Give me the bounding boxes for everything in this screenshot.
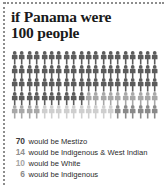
person-icon (144, 65, 151, 79)
person-icon (85, 78, 92, 92)
person-icon (85, 92, 92, 106)
person-icon (100, 51, 107, 65)
person-icon (41, 78, 48, 92)
legend-label: would be Indigenous (29, 169, 99, 180)
person-icon (100, 105, 107, 119)
person-icon (11, 105, 18, 119)
person-icon (92, 78, 99, 92)
person-icon (107, 92, 114, 106)
person-icon (63, 92, 70, 106)
person-icon (114, 105, 121, 119)
person-icon (92, 51, 99, 65)
legend-label: would be Mestizo (29, 136, 88, 147)
person-icon (114, 78, 121, 92)
page-title: if Panama were 100 people (11, 9, 156, 41)
pictogram-grid (11, 51, 159, 119)
person-icon (26, 78, 33, 92)
person-icon (100, 78, 107, 92)
person-icon (41, 65, 48, 79)
person-icon (129, 92, 136, 106)
person-icon (144, 105, 151, 119)
person-icon (85, 105, 92, 119)
legend-label: would be White (29, 158, 81, 169)
person-icon (151, 105, 158, 119)
person-icon (70, 78, 77, 92)
person-icon (100, 65, 107, 79)
legend-value: 6 (8, 169, 25, 180)
person-icon (11, 51, 18, 65)
person-icon (85, 65, 92, 79)
person-icon (122, 105, 129, 119)
person-icon (48, 105, 55, 119)
person-icon (26, 65, 33, 79)
person-icon (78, 65, 85, 79)
person-icon (70, 92, 77, 106)
person-icon (26, 105, 33, 119)
person-icon (41, 51, 48, 65)
legend-value: 14 (8, 147, 25, 158)
person-icon (92, 65, 99, 79)
person-icon (55, 78, 62, 92)
person-icon (55, 51, 62, 65)
person-icon (48, 92, 55, 106)
chart-legend: 70would be Mestizo14would be Indigenous … (8, 136, 160, 180)
person-icon (33, 92, 40, 106)
person-icon (151, 92, 158, 106)
person-icon (18, 105, 25, 119)
person-icon (63, 78, 70, 92)
title-line-2: 100 people (11, 25, 156, 41)
person-icon (129, 65, 136, 79)
legend-item: 10would be White (8, 158, 160, 169)
person-icon (48, 65, 55, 79)
person-icon (129, 105, 136, 119)
person-icon (78, 51, 85, 65)
person-icon (18, 92, 25, 106)
person-icon (33, 105, 40, 119)
person-icon (114, 92, 121, 106)
person-icon (129, 78, 136, 92)
person-icon (78, 105, 85, 119)
person-icon (100, 92, 107, 106)
person-icon (85, 51, 92, 65)
person-icon (137, 51, 144, 65)
person-icon (107, 65, 114, 79)
legend-value: 10 (8, 158, 25, 169)
person-icon (107, 51, 114, 65)
person-icon (107, 105, 114, 119)
person-icon (129, 51, 136, 65)
person-icon (63, 105, 70, 119)
person-icon (18, 65, 25, 79)
legend-item: 14would be Indigenous & West Indian (8, 147, 160, 158)
person-icon (122, 51, 129, 65)
person-icon (55, 65, 62, 79)
person-icon (48, 51, 55, 65)
infographic-panel: if Panama were 100 people 70would be Mes… (0, 0, 164, 185)
person-icon (63, 51, 70, 65)
person-icon (122, 65, 129, 79)
legend-item: 70would be Mestizo (8, 136, 160, 147)
person-icon (151, 78, 158, 92)
person-icon (122, 78, 129, 92)
person-icon (11, 92, 18, 106)
legend-value: 70 (8, 136, 25, 147)
person-icon (144, 51, 151, 65)
legend-label: would be Indigenous & West Indian (29, 147, 148, 158)
person-icon (63, 65, 70, 79)
person-icon (55, 92, 62, 106)
title-line-1: if Panama were (11, 8, 111, 25)
person-icon (78, 78, 85, 92)
person-icon (144, 92, 151, 106)
person-icon (11, 78, 18, 92)
person-icon (137, 105, 144, 119)
person-icon (151, 51, 158, 65)
person-icon (70, 105, 77, 119)
person-icon (33, 78, 40, 92)
person-icon (114, 65, 121, 79)
dotted-border-left (3, 2, 5, 185)
person-icon (107, 78, 114, 92)
person-icon (114, 51, 121, 65)
person-icon (137, 78, 144, 92)
dotted-border-top (4, 2, 164, 4)
person-icon (137, 92, 144, 106)
person-icon (137, 65, 144, 79)
